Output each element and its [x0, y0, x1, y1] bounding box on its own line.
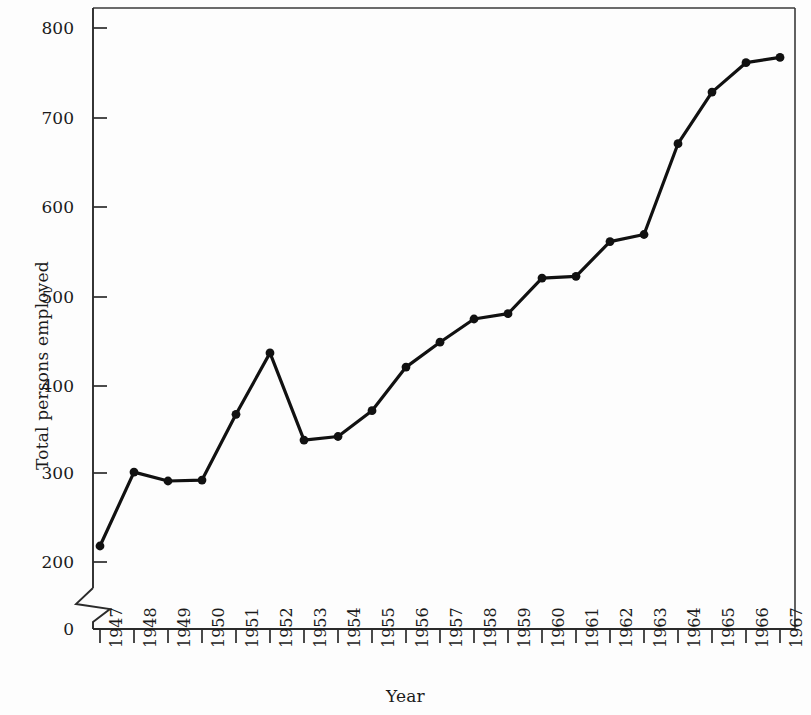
data-point [368, 406, 377, 415]
data-point [742, 58, 751, 67]
xtick-label-1948: 1948 [141, 607, 160, 648]
xtick-label-1965: 1965 [719, 607, 738, 648]
xtick-label-1950: 1950 [209, 607, 228, 648]
y-axis-title: Total persons employed [0, 0, 209, 20]
data-point [334, 432, 343, 441]
data-point [402, 363, 411, 372]
ytick-label-0: 0 [22, 619, 74, 639]
data-point [96, 542, 105, 551]
data-point [674, 139, 683, 148]
xtick-label-1957: 1957 [447, 607, 466, 648]
data-point-markers [96, 53, 785, 550]
data-point [538, 274, 547, 283]
xtick-label-1949: 1949 [175, 607, 194, 648]
data-point [776, 53, 785, 62]
data-point [708, 88, 717, 97]
data-point [640, 230, 649, 239]
xtick-label-1959: 1959 [515, 607, 534, 648]
x-axis-ticks [100, 629, 780, 643]
ytick-label-700: 700 [22, 108, 74, 128]
chart-figure: 800 700 600 500 400 300 200 0 1947194819… [0, 0, 811, 715]
xtick-label-1956: 1956 [413, 607, 432, 648]
data-point [198, 476, 207, 485]
data-point [232, 410, 241, 419]
xtick-label-1951: 1951 [243, 607, 262, 648]
ytick-label-800: 800 [22, 18, 74, 38]
xtick-label-1953: 1953 [311, 607, 330, 648]
data-point [470, 315, 479, 324]
plot-frame [93, 8, 795, 629]
xtick-label-1947: 1947 [107, 607, 126, 648]
xtick-label-1964: 1964 [685, 607, 704, 648]
x-axis-title: Year [0, 686, 811, 706]
xtick-label-1958: 1958 [481, 607, 500, 648]
data-point [130, 468, 139, 477]
y-axis-break-zigzag [76, 588, 110, 629]
data-point [436, 338, 445, 347]
xtick-label-1963: 1963 [651, 607, 670, 648]
data-series-line [100, 57, 780, 546]
xtick-label-1960: 1960 [549, 607, 568, 648]
data-point [266, 349, 275, 358]
ytick-label-600: 600 [22, 197, 74, 217]
xtick-label-1955: 1955 [379, 607, 398, 648]
data-point [164, 477, 173, 486]
data-point [300, 436, 309, 445]
data-point [504, 309, 513, 318]
y-axis-ticks [93, 28, 107, 562]
xtick-label-1952: 1952 [277, 607, 296, 648]
xtick-label-1954: 1954 [345, 607, 364, 648]
xtick-label-1961: 1961 [583, 607, 602, 648]
xtick-label-1962: 1962 [617, 607, 636, 648]
xtick-label-1967: 1967 [787, 607, 806, 648]
y-axis-title-text: Total persons employed [32, 261, 52, 470]
data-point [572, 272, 581, 281]
data-point [606, 237, 615, 246]
ytick-label-200: 200 [22, 552, 74, 572]
xtick-label-1966: 1966 [753, 607, 772, 648]
